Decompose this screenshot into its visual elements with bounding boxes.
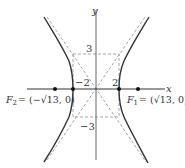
focus-f2-coords: = (−√13, 0) (18, 94, 75, 105)
hyperbola-right-branch (119, 17, 149, 163)
hyperbola-diagram: y x 3 −3 2 −2 F2= (−√13, 0) F1= (√13, 0) (0, 0, 185, 168)
focus-f1-sub: 1 (134, 99, 138, 107)
tick-label-x-pos: 2 (112, 77, 118, 88)
tick-label-x-neg: −2 (75, 77, 90, 88)
tick-label-y-pos: 3 (86, 43, 92, 54)
y-axis-label: y (91, 5, 98, 16)
tick-label-y-neg: −3 (80, 121, 95, 132)
focus-f2-point (53, 87, 57, 91)
focus-f2-label: F2= (−√13, 0) (5, 94, 75, 107)
focus-f1-point (136, 87, 140, 91)
focus-f2-sub: 2 (13, 99, 17, 107)
x-axis-label: x (166, 83, 172, 94)
focus-f1-label: F1= (√13, 0) (126, 94, 185, 107)
focus-f1-coords: = (√13, 0) (139, 94, 185, 105)
